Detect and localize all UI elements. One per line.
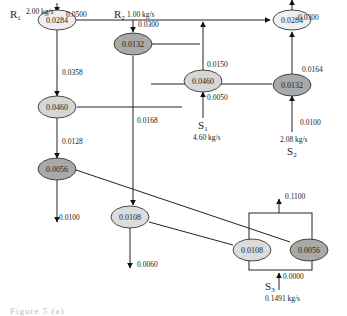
source-label-s3: S3 xyxy=(265,280,275,294)
node-label-r2: 0.0132 xyxy=(122,40,144,49)
source-label-s1: S1 xyxy=(198,119,208,133)
edge-label-r1-in: 0.0500 xyxy=(66,10,87,19)
source-label-r1: R1 xyxy=(10,8,21,22)
source-label-s2: S2 xyxy=(287,145,297,159)
node-label-s3-left: 0.0108 xyxy=(241,246,263,255)
source-flow-s3: 0.1491 kg/s xyxy=(265,294,300,303)
edge-label-r2-in: 0.0300 xyxy=(138,20,159,29)
edges xyxy=(57,0,312,290)
edge-label-left-down: 0.0128 xyxy=(62,137,83,146)
figure-caption: Figure 5 (a) xyxy=(10,306,65,316)
edge-label-s2-in: 0.0100 xyxy=(300,118,321,127)
source-flow-s1: 4.60 kg/s xyxy=(193,133,221,142)
source-s1: S1 4.60 kg/s xyxy=(193,119,221,142)
node-label-r1: 0.0284 xyxy=(46,16,68,25)
water-network-diagram: 0.0284 0.0284 0.0132 0.0460 0.0132 0.046… xyxy=(0,0,347,316)
node-label-left-low: 0.0056 xyxy=(46,165,68,174)
node-label-left-mid: 0.0460 xyxy=(46,103,68,112)
node-label-mid-low: 0.0108 xyxy=(119,213,141,222)
edge-label-s3-in: 0.0000 xyxy=(283,272,304,281)
edge-label-left-low-out: 0.0100 xyxy=(59,213,80,222)
edge-label-s1-in: 0.0050 xyxy=(207,93,228,102)
edge-label-r1-down: 0.0358 xyxy=(62,68,83,77)
node-label-s3-right: 0.0056 xyxy=(298,246,320,255)
source-label-r2: R2 xyxy=(114,8,125,22)
edge-mid-low-to-s3-left xyxy=(149,222,233,245)
source-s2: 2.08 kg/s S2 xyxy=(280,135,308,159)
edge-label-mid-low-out: 0.0060 xyxy=(137,260,158,269)
edge-label-s1-out: 0.0150 xyxy=(207,60,228,69)
edge-label-s3-out: 0.1100 xyxy=(285,192,306,201)
node-label-right-mid: 0.0132 xyxy=(281,81,303,90)
edge-label-right-up: 0.0164 xyxy=(302,65,323,74)
edge-label-r2-down: 0.0168 xyxy=(137,116,158,125)
source-flow-s2: 2.08 kg/s xyxy=(280,135,308,144)
source-s3: S3 0.1491 kg/s xyxy=(265,280,300,303)
source-flow-r1: 2.00 kg/s xyxy=(26,7,54,16)
source-flow-r2: 1.00 kg/s xyxy=(127,10,155,19)
node-label-s1: 0.0460 xyxy=(192,77,214,86)
edge-label-top-right-out: 0.0300 xyxy=(298,13,319,22)
